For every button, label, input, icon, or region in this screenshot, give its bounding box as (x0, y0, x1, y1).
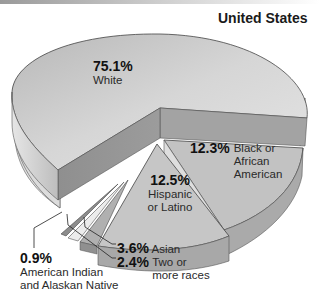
label-black: 12.3%Black orAfricanAmerican (190, 142, 282, 181)
label-white: 75.1% White (93, 58, 133, 87)
label-black-line1: Black or (234, 142, 276, 154)
label-black-line2: African (234, 155, 270, 167)
label-white-pct: 75.1% (93, 58, 133, 74)
label-hispanic-line1: Hispanic (148, 188, 192, 200)
label-black-line3: American (234, 168, 283, 180)
label-two-or-more: 2.4% Two ormore races (117, 256, 210, 282)
label-white-text: White (93, 74, 122, 86)
label-two-pct: 2.4% (117, 254, 149, 270)
label-two-line2: more races (152, 269, 210, 281)
label-hispanic-line2: or Latino (148, 201, 193, 213)
label-ai-line1: American Indian (20, 266, 103, 278)
label-american-indian: 0.9% American Indian and Alaskan Native (20, 250, 118, 290)
label-asian-text: Asian (151, 243, 180, 255)
label-ai-pct: 0.9% (20, 250, 118, 266)
leader-line-american-indian (34, 212, 62, 248)
label-black-pct: 12.3% (190, 140, 230, 156)
label-hispanic: 12.5% Hispanic or Latino (140, 172, 200, 214)
label-two-line1: Two or (152, 256, 187, 268)
label-hispanic-pct: 12.5% (140, 172, 200, 188)
label-ai-line2: and Alaskan Native (20, 279, 118, 290)
